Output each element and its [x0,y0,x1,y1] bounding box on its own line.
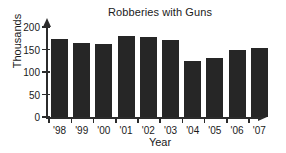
y-axis-tick-label: 100 [14,67,40,78]
y-axis-tick-label: 150 [14,45,40,56]
x-axis-tick-label: '07 [246,125,272,136]
bar [95,44,112,117]
x-axis-tick [248,118,250,123]
x-axis-tick [115,118,117,123]
x-axis-tick [204,118,206,123]
bar [162,40,179,117]
y-axis-tick-label: 0 [14,112,40,123]
bar [51,39,68,117]
bar [118,36,135,117]
x-axis-tick [159,118,161,123]
bar [206,58,223,117]
bar [73,43,90,117]
bar [140,37,157,117]
x-axis-tick [71,118,73,123]
plot-area: 050100150200 '98'99'00'01'02'03'04'05'06… [46,20,272,118]
bar [184,61,201,117]
bar [229,50,246,118]
x-axis-tick [48,118,50,123]
x-axis-tick [93,118,95,123]
y-axis-tick [42,94,50,96]
x-axis-tick [182,118,184,123]
bar [251,48,268,117]
chart-title: Robberies with Guns [60,6,260,18]
x-axis-label: Year [60,136,260,148]
y-axis-tick [42,71,50,73]
x-axis-tick [226,118,228,123]
x-axis-tick [137,118,139,123]
y-axis-tick-label: 200 [14,22,40,33]
y-axis-tick [42,49,50,51]
y-axis-tick [42,26,50,28]
bar-chart: Robberies with Guns Thousands Year 05010… [0,0,286,153]
x-axis-line [46,117,260,119]
y-axis-tick-label: 50 [14,90,40,101]
